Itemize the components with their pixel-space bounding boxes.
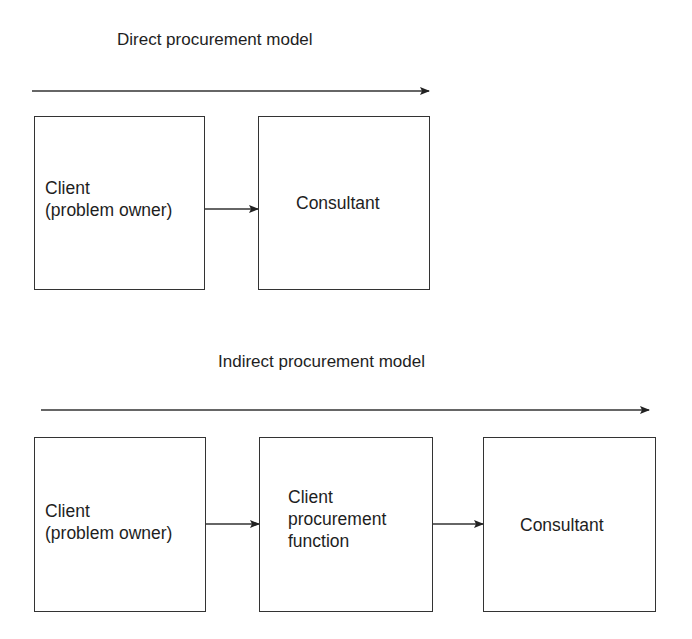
indirect-client-box: Client (problem owner) <box>34 437 206 612</box>
label-line: Client <box>45 177 172 199</box>
direct-consultant-box: Consultant <box>258 116 430 290</box>
indirect-consultant-label: Consultant <box>520 514 604 536</box>
direct-model-title: Direct procurement model <box>117 30 313 50</box>
label-line: Client <box>45 500 172 522</box>
label-line: Consultant <box>520 514 604 536</box>
label-line: (problem owner) <box>45 199 172 221</box>
direct-client-box: Client (problem owner) <box>34 116 205 290</box>
indirect-procurement-label: Client procurement function <box>288 486 386 552</box>
direct-consultant-label: Consultant <box>296 192 380 214</box>
indirect-client-label: Client (problem owner) <box>45 500 172 544</box>
indirect-model-title: Indirect procurement model <box>218 352 425 372</box>
label-line: Client <box>288 486 386 508</box>
direct-client-label: Client (problem owner) <box>45 177 172 221</box>
indirect-procurement-box: Client procurement function <box>259 437 433 612</box>
label-line: Consultant <box>296 192 380 214</box>
label-line: (problem owner) <box>45 522 172 544</box>
label-line: procurement <box>288 508 386 530</box>
label-line: function <box>288 530 386 552</box>
indirect-consultant-box: Consultant <box>483 437 656 612</box>
